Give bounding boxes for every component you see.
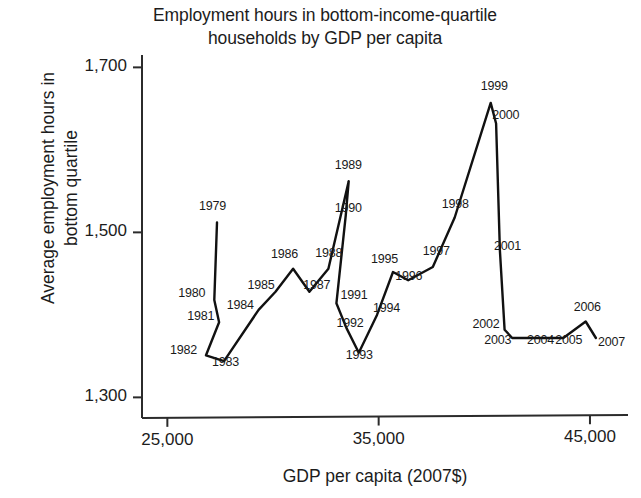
y-axis-tick-label: 1,700 — [57, 56, 127, 76]
data-point-label-1994: 1994 — [373, 301, 400, 315]
chart-title-line-1: Employment hours in bottom-income-quarti… — [153, 5, 497, 25]
data-point-label-1999: 1999 — [481, 79, 508, 93]
data-point-label-1981: 1981 — [187, 309, 214, 323]
data-point-label-1991: 1991 — [340, 288, 367, 302]
data-point-label-1985: 1985 — [248, 278, 275, 292]
data-point-label-1982: 1982 — [170, 343, 197, 357]
data-series-line — [206, 103, 596, 361]
y-axis-tick-label: 1,500 — [57, 221, 127, 241]
data-point-label-1990: 1990 — [335, 201, 362, 215]
data-point-label-2001: 2001 — [494, 239, 521, 253]
y-axis-label-line-1: Average employment hours in — [38, 72, 58, 304]
chart-figure: Employment hours in bottom-income-quarti… — [0, 0, 641, 498]
data-point-label-2007: 2007 — [598, 335, 625, 349]
x-axis-tick-label: 25,000 — [122, 430, 212, 450]
data-point-label-1993: 1993 — [346, 348, 373, 362]
data-point-label-1996: 1996 — [395, 269, 422, 283]
x-axis-line — [142, 415, 628, 418]
x-axis-tick-label: 45,000 — [545, 427, 635, 447]
y-axis-label: Average employment hours in bottom quart… — [37, 38, 83, 338]
y-axis-tick-label: 1,300 — [57, 386, 127, 406]
data-point-label-2000: 2000 — [492, 108, 519, 122]
data-point-label-2004: 2004 — [527, 333, 554, 347]
data-point-label-1997: 1997 — [423, 244, 450, 258]
data-point-label-2003: 2003 — [484, 333, 511, 347]
x-axis-label: GDP per capita (2007$) — [140, 466, 610, 487]
data-point-label-1988: 1988 — [315, 246, 342, 260]
chart-title: Employment hours in bottom-income-quarti… — [90, 4, 560, 50]
data-point-label-1995: 1995 — [371, 252, 398, 266]
data-point-label-1980: 1980 — [178, 286, 205, 300]
data-point-label-1998: 1998 — [442, 197, 469, 211]
data-point-label-1979: 1979 — [199, 199, 226, 213]
chart-title-line-2: households by GDP per capita — [208, 28, 442, 48]
x-axis-tick-label: 35,000 — [334, 429, 424, 449]
data-point-label-1983: 1983 — [212, 355, 239, 369]
data-point-label-2005: 2005 — [555, 333, 582, 347]
data-point-label-1984: 1984 — [227, 298, 254, 312]
data-point-label-2006: 2006 — [574, 300, 601, 314]
data-point-label-2002: 2002 — [473, 317, 500, 331]
data-point-label-1992: 1992 — [337, 316, 364, 330]
data-point-label-1989: 1989 — [335, 158, 362, 172]
data-point-label-1987: 1987 — [303, 278, 330, 292]
data-point-label-1986: 1986 — [271, 247, 298, 261]
